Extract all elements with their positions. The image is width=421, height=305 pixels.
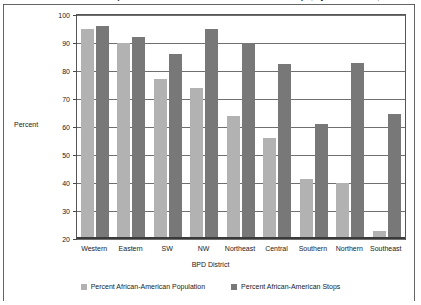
bar [300,179,313,239]
legend-label: Percent African-American Stops [241,283,340,290]
x-tick-label: SW [161,245,172,252]
legend-swatch-icon [231,284,237,290]
x-tick-label: NW [198,245,210,252]
bar [205,29,218,239]
chart-title: Percent African-American Population and … [0,0,421,1]
x-tick-label: Northeast [225,245,255,252]
y-tick-label-40: 40 [62,180,70,187]
y-tick-label-90: 90 [62,40,70,47]
x-axis-line [77,237,405,239]
chart-legend: Percent African-American PopulationPerce… [0,283,421,290]
bar [263,138,276,239]
y-tick-label-100: 100 [58,12,70,19]
y-axis-title: Percent [14,121,38,128]
bar-group [369,15,405,239]
legend-swatch-icon [81,284,87,290]
y-tick-label-70: 70 [62,96,70,103]
y-tick-label-20: 20 [62,236,70,243]
bar [190,88,203,239]
bar [81,29,94,239]
gridline-20 [77,239,405,240]
bar [117,43,130,239]
page-rule-right [414,4,415,301]
bar [169,54,182,239]
plot-area: 2030405060708090100 [76,14,406,240]
bar [132,37,145,239]
bar [351,63,364,239]
page-rule-top [3,4,415,5]
page-rule-left [3,4,4,301]
bar [336,183,349,239]
legend-item[interactable]: Percent African-American Stops [231,283,340,290]
x-tick-label: Central [265,245,288,252]
bar [154,79,167,239]
y-tick-label-50: 50 [62,152,70,159]
y-tick-label-80: 80 [62,68,70,75]
legend-label: Percent African-American Population [91,283,205,290]
bar-group [223,15,259,239]
bar [278,64,291,239]
bar-group [296,15,332,239]
chart-figure: Percent African-American Population and … [0,0,421,305]
bar-group [77,15,113,239]
bar [96,26,109,239]
bar-group [259,15,295,239]
bar [315,124,328,239]
y-tick-label-60: 60 [62,124,70,131]
legend-item[interactable]: Percent African-American Population [81,283,205,290]
x-tick-label: Northern [336,245,363,252]
y-tick-20 [73,239,77,240]
bar-group [150,15,186,239]
bar [242,43,255,239]
x-axis-title: BPD District [0,261,421,268]
x-tick-label: Southern [299,245,327,252]
bar-group [186,15,222,239]
bar-group [332,15,368,239]
y-tick-label-30: 30 [62,208,70,215]
bar [388,114,401,239]
x-tick-label: Southeast [370,245,402,252]
bar [227,116,240,239]
x-tick-label: Eastern [119,245,143,252]
x-tick-label: Western [81,245,107,252]
bar-group [113,15,149,239]
